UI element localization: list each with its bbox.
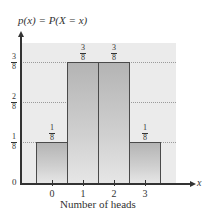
x-tick-label-0: 0 <box>50 188 55 199</box>
denominator: 8 <box>12 63 16 71</box>
numerator: 3 <box>112 44 116 52</box>
denominator: 8 <box>112 54 116 62</box>
x-axis-arrow-icon <box>190 181 196 187</box>
x-axis-variable: x <box>197 177 201 188</box>
bar-label-2: 3 8 <box>111 44 117 62</box>
denominator: 8 <box>12 143 16 151</box>
numerator: 1 <box>12 133 16 141</box>
numerator: 3 <box>12 53 16 61</box>
numerator: 2 <box>12 93 16 101</box>
bar-1 <box>67 62 99 184</box>
y-tick-label: 2 8 <box>11 93 17 111</box>
bar-3 <box>129 142 161 184</box>
y-tick-label: 3 8 <box>11 53 17 71</box>
y-tick-0: 0 <box>12 177 17 187</box>
denominator: 8 <box>50 134 54 142</box>
numerator: 1 <box>143 124 147 132</box>
x-tick-mark-3 <box>145 180 146 186</box>
bar-2 <box>98 62 130 184</box>
denominator: 8 <box>12 103 16 111</box>
y-tick-label: 1 8 <box>11 133 17 151</box>
y-axis-arrow-icon <box>18 31 24 37</box>
bar-label-0: 1 8 <box>49 124 55 142</box>
denominator: 8 <box>143 134 147 142</box>
bar-label-1: 3 8 <box>80 44 86 62</box>
x-tick-mark-1 <box>83 180 84 186</box>
x-tick-mark-0 <box>52 180 53 186</box>
numerator: 1 <box>50 124 54 132</box>
x-axis <box>20 183 192 185</box>
bar-0 <box>36 142 68 184</box>
y-axis <box>20 36 22 184</box>
probability-histogram: 1 8 3 8 3 8 1 8 1 8 2 8 3 8 <box>0 0 209 218</box>
denominator: 8 <box>81 54 85 62</box>
x-tick-label-3: 3 <box>143 188 148 199</box>
x-tick-mark-2 <box>114 180 115 186</box>
bar-label-3: 1 8 <box>142 124 148 142</box>
chart-title: p(x) = P(X = x) <box>18 14 87 26</box>
numerator: 3 <box>81 44 85 52</box>
x-axis-label: Number of heads <box>60 198 136 210</box>
